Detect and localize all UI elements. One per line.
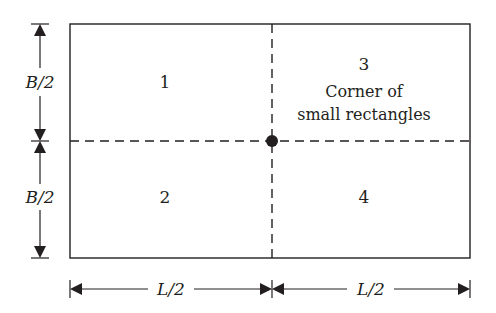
dimension-label-l-half-right: L/2 — [356, 279, 385, 299]
corner-point — [266, 135, 278, 147]
corner-note-line2: small rectangles — [297, 105, 431, 124]
arrow-left-icon — [272, 283, 284, 295]
arrow-right-icon — [458, 283, 470, 295]
dimension-label-l-half-left: L/2 — [156, 279, 185, 299]
region-1-label: 1 — [160, 72, 171, 92]
dimension-label-b-half-bottom: B/2 — [24, 187, 54, 207]
corner-note-line1: Corner of — [325, 82, 404, 101]
region-3-label: 3 — [359, 54, 370, 74]
arrow-up-icon — [34, 24, 46, 36]
arrow-left-icon — [70, 283, 82, 295]
arrow-up-icon — [34, 141, 46, 153]
arrow-down-icon — [34, 129, 46, 141]
arrow-down-icon — [34, 246, 46, 258]
foundation-rectangle-diagram: 1 2 3 Corner of small rectangles 4 B/2 B… — [0, 0, 496, 313]
arrow-right-icon — [260, 283, 272, 295]
dimension-label-b-half-top: B/2 — [24, 72, 54, 92]
region-2-label: 2 — [160, 187, 171, 207]
region-4-label: 4 — [359, 187, 370, 207]
